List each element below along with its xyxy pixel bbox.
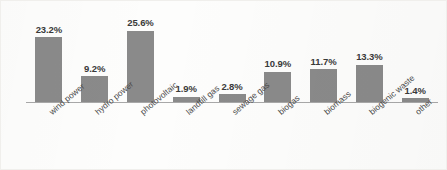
bar-rect[interactable] <box>310 69 337 102</box>
bar-value-label: 11.7% <box>311 57 337 67</box>
bar-value-label: 2.8% <box>221 82 242 92</box>
x-label-slot: hydro power <box>72 104 118 168</box>
bar-rect[interactable] <box>356 65 383 102</box>
bar-rect[interactable] <box>127 31 154 102</box>
bar-value-label: 13.3% <box>356 52 382 62</box>
bar-value-label: 25.6% <box>127 18 153 28</box>
bar-slot-biogenic-waste[interactable]: 13.3% <box>346 9 392 102</box>
bars-row: 23.2% 9.2% 25.6% 1.9% 2.8% 10.9% <box>26 9 438 102</box>
bar-rect[interactable] <box>35 37 62 102</box>
x-label-slot: wind power <box>26 104 72 168</box>
bar-value-label: 1.9% <box>176 84 197 94</box>
x-label-slot: photovoltaic <box>118 104 164 168</box>
x-label-slot: biogenic waste <box>346 104 392 168</box>
x-label-slot: biomass <box>301 104 347 168</box>
bar-slot-wind-power[interactable]: 23.2% <box>26 9 72 102</box>
bar-value-label: 10.9% <box>265 59 291 69</box>
plot-area: 23.2% 9.2% 25.6% 1.9% 2.8% 10.9% <box>26 9 438 102</box>
bar-chart-figure: 23.2% 9.2% 25.6% 1.9% 2.8% 10.9% <box>0 0 447 170</box>
bar-value-label: 23.2% <box>36 25 62 35</box>
x-label-slot: biogas <box>255 104 301 168</box>
x-label-slot: landfill gas <box>163 104 209 168</box>
x-axis-labels: wind power hydro power photovoltaic land… <box>26 104 438 168</box>
bar-slot-biomass[interactable]: 11.7% <box>301 9 347 102</box>
bar-value-label: 9.2% <box>84 64 105 74</box>
x-label-slot: sewage gas <box>209 104 255 168</box>
x-label-slot: other <box>392 104 438 168</box>
